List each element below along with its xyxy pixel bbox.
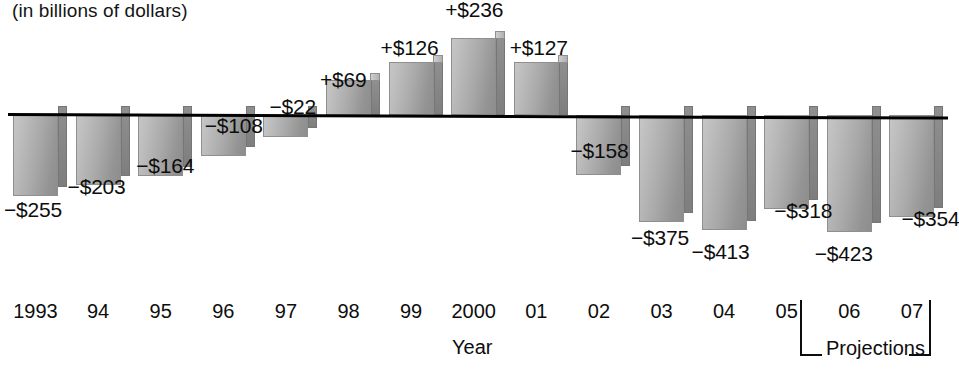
bar-side-face bbox=[371, 80, 380, 115]
bar-top-face bbox=[495, 31, 505, 39]
bar-front-face bbox=[389, 62, 434, 115]
bar-07 bbox=[889, 115, 934, 217]
value-label-06: −$423 bbox=[815, 242, 873, 266]
bar-side-face bbox=[434, 62, 443, 115]
value-label-96: −$108 bbox=[205, 114, 263, 138]
value-label-03: −$375 bbox=[631, 226, 689, 250]
bar-side-face bbox=[809, 106, 818, 200]
value-label-2000: +$236 bbox=[445, 0, 503, 22]
value-label-95: −$164 bbox=[136, 154, 194, 178]
bar-2000 bbox=[451, 38, 496, 115]
plot-area: −$255−$203−$164−$108−$22+$69+$126+$236+$… bbox=[0, 0, 953, 290]
value-label-1993: −$255 bbox=[4, 198, 62, 222]
bar-side-face bbox=[559, 62, 568, 115]
bar-front-face bbox=[451, 38, 496, 115]
bar-side-face bbox=[684, 106, 693, 213]
bar-front-face bbox=[514, 62, 559, 115]
value-label-07: −$354 bbox=[901, 207, 959, 231]
bar-side-face bbox=[934, 106, 943, 208]
bar-top-face bbox=[370, 73, 380, 81]
bar-04 bbox=[702, 115, 747, 230]
value-label-02: −$158 bbox=[570, 139, 628, 163]
value-label-05: −$318 bbox=[774, 199, 832, 223]
bar-front-face bbox=[764, 115, 809, 209]
value-label-94: −$203 bbox=[68, 175, 126, 199]
bar-01 bbox=[514, 62, 559, 115]
bar-side-face bbox=[872, 106, 881, 223]
bar-03 bbox=[639, 115, 684, 222]
bar-front-face bbox=[702, 115, 747, 230]
bar-front-face bbox=[827, 115, 872, 232]
bar-side-face bbox=[747, 106, 756, 221]
projections-label: Projections bbox=[826, 337, 925, 360]
value-label-98: +$69 bbox=[320, 68, 367, 92]
x-axis-title: Year bbox=[452, 336, 492, 359]
bar-05 bbox=[764, 115, 809, 209]
bar-front-face bbox=[889, 115, 934, 217]
bar-front-face bbox=[639, 115, 684, 222]
bar-1993 bbox=[13, 115, 58, 196]
bar-side-face bbox=[58, 106, 67, 187]
bar-side-face bbox=[496, 38, 505, 115]
bar-front-face bbox=[13, 115, 58, 196]
value-label-01: +$127 bbox=[510, 36, 568, 60]
value-label-04: −$413 bbox=[692, 240, 750, 264]
bar-06 bbox=[827, 115, 872, 232]
value-label-99: +$126 bbox=[381, 36, 439, 60]
x-label-07: 07 bbox=[875, 300, 948, 323]
bar-99 bbox=[389, 62, 434, 115]
